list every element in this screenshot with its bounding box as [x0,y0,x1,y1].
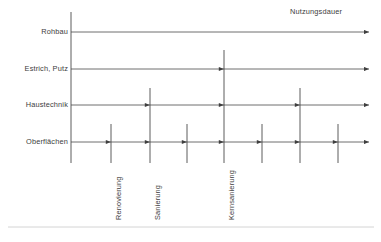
timeline-arrowhead-r2-1 [219,103,224,107]
top-annotation-nutzungsdauer: Nutzungsdauer [290,8,342,15]
diagram-canvas [0,0,381,242]
timeline-arrowhead-r3-0 [106,140,111,144]
timeline-arrowhead-r3-1 [145,140,150,144]
timeline-arrowhead-r2-0 [145,103,150,107]
diagram-lines [8,12,374,227]
timeline-arrowhead-r3-5 [295,140,300,144]
row-label-haustechnik: Haustechnik [0,101,68,108]
lifecycle-diagram: Nutzungsdauer RohbauEstrich, PutzHaustec… [0,0,381,242]
row-label-rohbau: Rohbau [0,28,68,35]
timeline-arrowhead-r3-6 [333,140,338,144]
timeline-arrowhead-r3-2 [182,140,187,144]
event-label-sanierung: Sanierung [154,185,161,220]
timeline-arrowhead-r3-4 [257,140,262,144]
event-label-renovierung: Renovierung [115,176,122,220]
timeline-arrowhead-r3-3 [219,140,224,144]
event-label-kernsanierung: Kernsanierung [228,170,235,220]
row-label-estrich-putz: Estrich, Putz [0,65,68,72]
timeline-arrowhead-r1-0 [219,67,224,71]
row-label-oberfl-chen: Oberflächen [0,138,68,145]
timeline-arrowhead-r2-2 [295,103,300,107]
